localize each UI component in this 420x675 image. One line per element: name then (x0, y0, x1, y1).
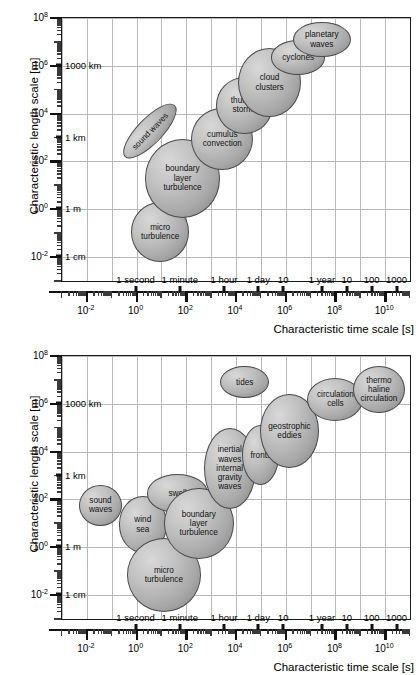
y-axis-ruler (50, 355, 61, 618)
y-tick-minor (57, 360, 62, 362)
y-tick-minor (57, 575, 62, 577)
x-tick-minor (126, 291, 127, 296)
y-tick-minor (57, 552, 62, 554)
y-named-tick-nub (56, 593, 62, 596)
y-tick-minor (57, 458, 62, 460)
x-tick-minor (172, 629, 173, 634)
y-tick-label: 102 (33, 492, 48, 504)
grid-line-horizontal (62, 356, 410, 357)
x-tick-minor (317, 629, 318, 634)
x-tick (86, 629, 88, 640)
y-tick-minor (57, 116, 62, 118)
y-tick (54, 41, 61, 43)
x-tick (384, 291, 386, 302)
x-tick-minor (367, 291, 368, 296)
y-tick-minor (57, 120, 62, 122)
y-tick-minor (57, 50, 62, 52)
x-named-tick-label: 100 (364, 612, 380, 623)
x-tick-minor (250, 629, 251, 634)
grid-line-vertical (335, 18, 336, 281)
y-tick-minor (57, 559, 62, 561)
bubble-label: circulationcells (315, 390, 356, 408)
y-tick-minor (57, 101, 62, 103)
y-tick (54, 427, 61, 429)
x-named-tick-label: 10 (342, 612, 353, 623)
y-tick-minor (57, 391, 62, 393)
x-named-tick-nub (134, 624, 137, 630)
bubble-label: soundwaves (87, 496, 114, 514)
y-tick-minor (57, 478, 62, 480)
y-tick-label: 102 (33, 154, 48, 166)
x-named-tick-label: 1000 (386, 274, 407, 285)
y-tick-minor (57, 190, 62, 192)
y-tick (50, 17, 61, 19)
y-tick-minor (57, 539, 62, 541)
x-tick-minor (168, 291, 169, 296)
x-tick-minor (297, 291, 298, 296)
bubble-label: inertialwavesinternalgravitywaves (214, 445, 245, 491)
y-tick (54, 280, 61, 282)
x-tick-minor (118, 291, 119, 296)
y-tick-minor (57, 142, 62, 144)
y-tick-minor (57, 197, 62, 199)
x-named-tick-label: 1 minute (162, 612, 198, 623)
x-tick-minor (292, 291, 293, 296)
x-tick-minor (267, 629, 268, 634)
y-tick-minor (57, 140, 62, 142)
y-tick-minor (57, 122, 62, 124)
y-tick-label: 108 (33, 11, 48, 23)
x-tick-minor (275, 291, 276, 296)
x-named-tick-label: 1 minute (162, 274, 198, 285)
x-tick-minor (73, 629, 74, 634)
y-tick (54, 379, 61, 381)
y-tick-minor (57, 212, 62, 214)
x-tick (285, 629, 287, 640)
x-tick-minor (143, 291, 144, 296)
bubble-label: boundarylayerturbulence (161, 164, 203, 192)
x-named-tick-label: 1 hour (210, 612, 237, 623)
x-tick (359, 629, 360, 636)
bubble-sound-waves: soundwaves (79, 485, 123, 527)
y-tick-minor (57, 27, 62, 29)
y-tick-minor (57, 164, 62, 166)
y-tick-label: 108 (33, 349, 48, 361)
x-tick-minor (98, 291, 99, 296)
y-tick-minor (57, 58, 62, 60)
grid-line-vertical (360, 18, 361, 281)
y-tick-label: 10-2 (31, 250, 48, 262)
x-tick (111, 291, 112, 298)
x-named-tick-label: 10 (278, 612, 289, 623)
y-tick-minor (57, 412, 62, 414)
x-tick (185, 291, 187, 302)
y-named-tick-label: 1 km (65, 469, 86, 480)
y-tick-minor (57, 94, 62, 96)
x-axis-ruler (61, 291, 409, 302)
y-tick-minor (57, 225, 62, 227)
x-tick (409, 291, 410, 298)
y-tick-minor (57, 105, 62, 107)
y-axis-title: Characteristic length scale [m] (28, 6, 40, 266)
y-tick-minor (57, 72, 62, 74)
bubble-label: geostrophiceddies (266, 422, 312, 440)
y-tick-minor (57, 69, 62, 71)
y-tick-minor (57, 74, 62, 76)
x-named-tick-nub (370, 624, 373, 630)
x-named-tick-nub (320, 286, 323, 292)
bubble-planetary-waves: planetarywaves (293, 22, 351, 58)
y-tick-minor (57, 408, 62, 410)
y-tick-minor (57, 153, 62, 155)
x-tick-minor (197, 291, 198, 296)
x-named-tick-label: 1000 (386, 612, 407, 623)
y-tick-minor (57, 599, 62, 601)
x-tick-minor (342, 291, 343, 296)
y-tick-minor (57, 269, 62, 271)
y-tick-minor (57, 266, 62, 268)
plot-area: microturbulencesound wavesboundarylayert… (61, 17, 411, 282)
x-named-tick-nub (222, 286, 225, 292)
x-tick (310, 629, 311, 636)
x-tick (285, 291, 287, 302)
x-named-tick-label: 10 (342, 274, 353, 285)
x-tick-label: 106 (277, 642, 292, 654)
x-tick-minor (275, 629, 276, 634)
y-named-tick-label: 1000 km (65, 59, 101, 70)
